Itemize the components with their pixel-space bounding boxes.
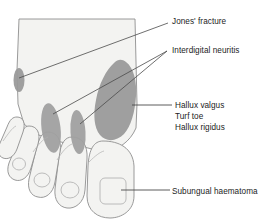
label-hallux-valgus: Hallux valgus xyxy=(175,100,225,111)
foot-pathology-figure: Jones' fracture Interdigital neuritis Ha… xyxy=(0,0,273,224)
fourth-toe-nail xyxy=(13,158,26,170)
label-subungual-haematoma: Subungual haematoma xyxy=(172,186,258,197)
label-hallux-rigidus: Hallux rigidus xyxy=(175,122,225,133)
label-jones-fracture: Jones' fracture xyxy=(172,16,226,27)
label-turf-toe: Turf toe xyxy=(175,111,225,122)
jones-fracture-marker xyxy=(14,68,25,92)
label-hallux-group: Hallux valgus Turf toe Hallux rigidus xyxy=(175,100,225,133)
third-toe-nail xyxy=(34,173,50,187)
label-interdigital-neuritis: Interdigital neuritis xyxy=(172,45,240,56)
hallux-nail xyxy=(100,178,126,204)
second-toe-nail xyxy=(61,182,79,198)
